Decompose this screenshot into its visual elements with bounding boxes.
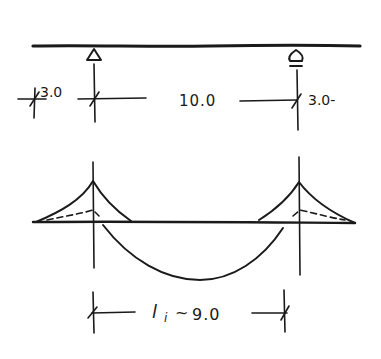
right-overhang-label: 3.0- (308, 92, 335, 108)
left-support-icon (87, 49, 101, 60)
support-axis-lines-upper (34, 64, 298, 130)
left-overhang-label: 3.0 (40, 84, 62, 100)
effective-span-value: 9.0 (192, 305, 220, 324)
effective-span-subscript: i (164, 311, 168, 325)
span-label: 10.0 (179, 92, 216, 110)
right-support-icon (289, 50, 302, 66)
dimension-line-lower (88, 290, 289, 333)
moment-diagram (33, 157, 355, 280)
beam (33, 45, 360, 46)
approx-symbol: ~ (175, 303, 188, 322)
structural-sketch: 3.0 10.0 3.0- l i ~ 9.0 (0, 0, 381, 359)
effective-span-symbol: l (152, 301, 157, 322)
